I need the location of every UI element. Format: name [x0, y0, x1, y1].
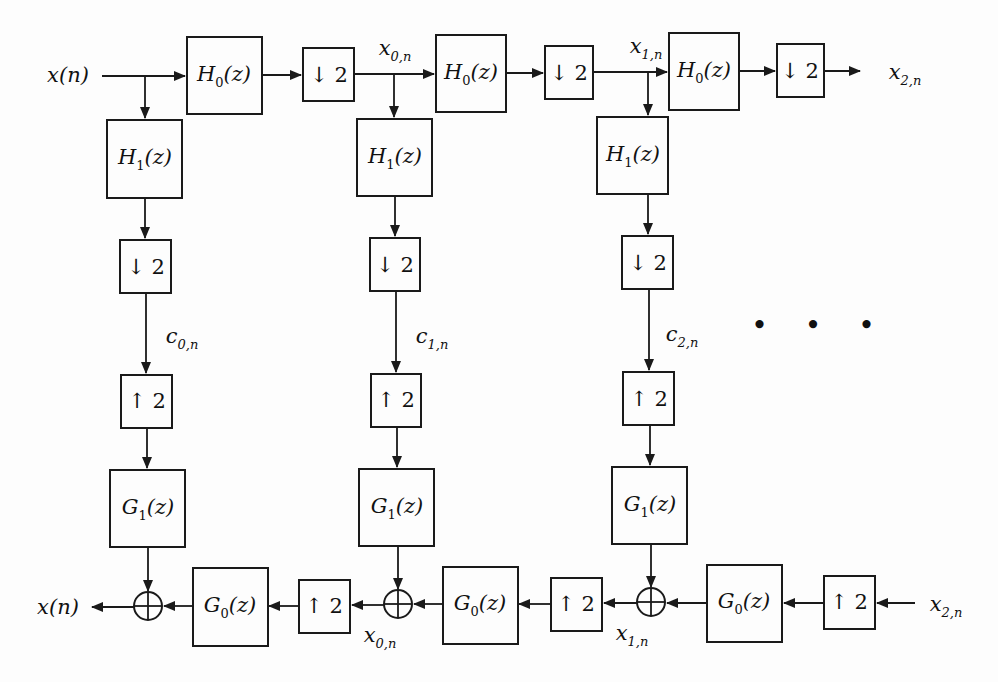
h1-label-3: H1(z) [606, 142, 660, 169]
downsample-label-3: ↓ 2 [629, 251, 667, 275]
upsample-label-bottom-2: ↑ 2 [557, 592, 595, 616]
c0n-label: c0,n [166, 324, 199, 351]
downsample-label-1: ↓ 2 [127, 255, 165, 279]
downsample-label-top-1: ↓ 2 [310, 63, 348, 87]
downsample-label-top-2: ↓ 2 [550, 61, 588, 85]
upsample-label-bottom-1: ↑ 2 [305, 594, 343, 618]
filter-bank-diagram: x(n) H0(z) ↓ 2 x0,n H0(z) ↓ 2 x1,n H0(z)… [0, 0, 998, 682]
x1n-label-top: x1,n [630, 34, 663, 61]
continuation-ellipsis: • • • [751, 309, 888, 342]
upsample-label-1: ↑ 2 [128, 389, 166, 413]
upsample-label-bottom-3: ↑ 2 [830, 590, 868, 614]
input-signal-label: x(n) [47, 63, 89, 87]
downsample-label-2: ↓ 2 [376, 253, 414, 277]
h1-label-1: H1(z) [118, 145, 172, 172]
upsample-label-3: ↑ 2 [630, 387, 668, 411]
g1-label-3: G1(z) [624, 492, 677, 519]
downsample-label-top-3: ↓ 2 [781, 59, 819, 83]
output-signal-label: x(n) [37, 595, 79, 619]
g0-label-2: G0(z) [454, 591, 507, 618]
x2n-label-bottom: x2,n [930, 592, 963, 619]
x0n-label-bottom: x0,n [364, 623, 397, 650]
g1-label-2: G1(z) [371, 494, 424, 521]
x2n-label-top: x2,n [889, 60, 922, 87]
h0-label-2: H0(z) [444, 60, 498, 87]
x0n-label-top: x0,n [379, 36, 412, 63]
c1n-label: c1,n [416, 324, 449, 351]
h1-label-2: H1(z) [368, 144, 422, 171]
g0-label-3: G0(z) [718, 589, 771, 616]
upsample-label-2: ↑ 2 [377, 388, 415, 412]
x1n-label-bottom: x1,n [616, 621, 649, 648]
h0-label-1: H0(z) [197, 62, 251, 89]
c2n-label: c2,n [666, 322, 699, 349]
h0-label-3: H0(z) [677, 58, 731, 85]
g0-label-1: G0(z) [204, 593, 257, 620]
g1-label-1: G1(z) [122, 495, 175, 522]
